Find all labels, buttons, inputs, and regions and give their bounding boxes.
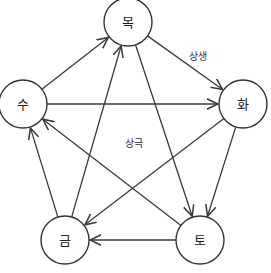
overcoming-label: 상극 [125,138,143,149]
overcoming-arrow-wood-to-earth [136,45,193,217]
overcoming-arrow-fire-to-metal [85,119,224,225]
generating-arrow-fire-to-earth [208,127,236,216]
node-fire: 화 [219,80,267,128]
node-wood: 목 [104,0,152,46]
generating-arrow-water-to-wood [42,37,108,89]
node-label: 화 [237,97,249,112]
generating-arrow-metal-to-water [30,128,58,217]
overcoming-arrow-earth-to-water [43,119,181,225]
generating-label: 상생 [189,51,207,62]
node-metal: 금 [41,216,89,264]
overcoming-arrow-metal-to-wood [72,46,121,217]
element-nodes: 목화토금수 [0,0,267,264]
overcoming-edges [43,45,224,226]
generating-arrow-wood-to-fire [148,36,223,90]
node-label: 목 [122,15,134,30]
five-elements-diagram: 목화토금수 상생 상극 [0,0,271,273]
node-label: 토 [194,233,206,248]
node-earth: 토 [176,216,224,264]
node-water: 수 [0,80,47,128]
node-label: 수 [17,97,29,112]
node-label: 금 [59,233,71,248]
